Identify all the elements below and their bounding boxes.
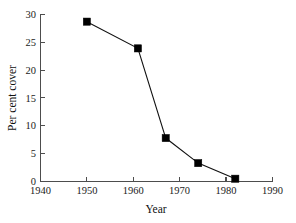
x-axis-tick-labels: 1940 1950 1960 1970 1980 1990: [30, 185, 283, 196]
y-tick-label-15: 15: [26, 93, 37, 104]
x-tick-label-1960: 1960: [123, 185, 144, 196]
data-point-marker: [134, 45, 141, 52]
x-axis-title: Year: [145, 203, 166, 215]
x-tick-label-1950: 1950: [76, 185, 97, 196]
x-tick-label-1990: 1990: [262, 185, 283, 196]
x-tick-label-1970: 1970: [169, 185, 190, 196]
chart-svg: 0 5 10 15 20 25 30 1940 1950 1960 1970 1…: [0, 0, 296, 223]
y-tick-label-10: 10: [26, 120, 37, 131]
chart-figure: 0 5 10 15 20 25 30 1940 1950 1960 1970 1…: [0, 0, 296, 223]
data-point-marker: [162, 134, 169, 141]
series-markers: [83, 18, 239, 182]
y-tick-label-25: 25: [26, 37, 37, 48]
data-point-marker: [232, 175, 239, 182]
data-point-marker: [83, 18, 90, 25]
y-tick-label-30: 30: [26, 9, 37, 20]
data-series-per-cent-cover: [83, 18, 239, 182]
y-axis-tick-labels: 0 5 10 15 20 25 30: [26, 9, 37, 187]
y-tick-label-5: 5: [31, 148, 36, 159]
series-line: [87, 22, 235, 179]
y-axis-title: Per cent cover: [6, 65, 18, 131]
x-tick-label-1980: 1980: [216, 185, 237, 196]
y-axis-ticks: [41, 14, 46, 181]
x-tick-label-1940: 1940: [30, 185, 51, 196]
data-point-marker: [195, 160, 202, 167]
y-tick-label-20: 20: [26, 65, 37, 76]
